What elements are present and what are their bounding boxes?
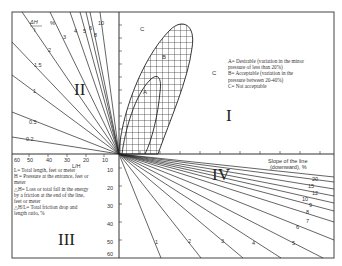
svg-text:ΔH: ΔH xyxy=(29,19,38,25)
region-b-label: B xyxy=(162,54,166,60)
legend-acceptability: A= Desirable (variation in the minor pre… xyxy=(228,58,328,89)
svg-text:12: 12 xyxy=(312,190,318,196)
svg-text:(downward), %: (downward), % xyxy=(270,164,307,170)
quadrant-iii-label: III xyxy=(58,230,75,250)
svg-text:4: 4 xyxy=(74,28,77,34)
svg-text:1: 1 xyxy=(33,88,36,94)
quadrant-iv-label: IV xyxy=(212,165,230,185)
svg-text:1.5: 1.5 xyxy=(34,62,42,68)
svg-text:3: 3 xyxy=(63,34,66,40)
region-c-label-right: C xyxy=(212,70,216,76)
svg-text:6: 6 xyxy=(89,25,92,31)
legend-definitions: L= Total length, feet or meter H = Press… xyxy=(14,167,114,217)
svg-text:50: 50 xyxy=(107,239,113,245)
svg-text:50: 50 xyxy=(27,157,33,163)
svg-text:10: 10 xyxy=(102,157,108,163)
svg-text:0.5: 0.5 xyxy=(29,119,37,125)
quadrant-i-label: I xyxy=(226,106,232,126)
svg-text:1: 1 xyxy=(155,239,158,245)
svg-text:2: 2 xyxy=(48,47,51,53)
svg-text:40: 40 xyxy=(46,157,52,163)
svg-text:l: l xyxy=(34,27,35,33)
svg-text:4: 4 xyxy=(252,240,255,246)
svg-text:%: % xyxy=(50,20,55,26)
svg-text:40: 40 xyxy=(107,221,113,227)
svg-text:60: 60 xyxy=(14,157,20,163)
svg-text:30: 30 xyxy=(64,157,70,163)
svg-text:5: 5 xyxy=(292,240,295,246)
svg-text:5: 5 xyxy=(83,28,86,34)
svg-text:6: 6 xyxy=(296,224,299,230)
svg-text:10: 10 xyxy=(302,196,308,202)
region-c-label-top: C xyxy=(140,26,144,32)
svg-text:2: 2 xyxy=(188,238,191,244)
svg-text:60: 60 xyxy=(107,251,113,257)
quadrant-ii-label: II xyxy=(74,80,85,100)
svg-text:20: 20 xyxy=(83,157,89,163)
svg-text:10: 10 xyxy=(98,20,104,26)
svg-text:20: 20 xyxy=(312,176,318,182)
svg-text:7: 7 xyxy=(306,218,309,224)
region-b-acceptable xyxy=(119,24,193,154)
svg-text:8: 8 xyxy=(306,209,309,215)
nomogram-diagram: 0.2 0.5 1 1.5 2 3 4 5 6 8 10 1 2 3 4 5 6… xyxy=(0,0,342,266)
svg-text:3: 3 xyxy=(221,238,224,244)
svg-text:8: 8 xyxy=(94,32,97,38)
svg-text:0.2: 0.2 xyxy=(26,136,34,142)
region-a-label: A xyxy=(143,89,147,95)
svg-text:9: 9 xyxy=(309,202,312,208)
svg-text:15: 15 xyxy=(308,183,314,189)
